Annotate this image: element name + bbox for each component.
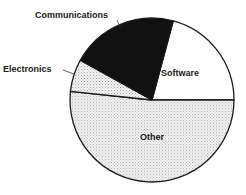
- pie-slices: [70, 18, 234, 182]
- slice-label-software: Software: [161, 68, 199, 78]
- slice-label-electronics: Electronics: [3, 64, 52, 74]
- slice-label-other: Other: [140, 132, 165, 142]
- leader-line-electronics: [63, 70, 74, 74]
- pie-chart: SoftwareOtherElectronicsCommunications: [0, 0, 246, 195]
- slice-label-communications: Communications: [35, 10, 108, 20]
